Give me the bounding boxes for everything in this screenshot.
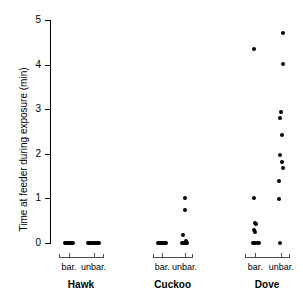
x-sublabel-unbar-3: unbar.: [165, 262, 205, 273]
data-point: [279, 110, 283, 114]
data-point: [278, 241, 282, 245]
y-tick-0: [45, 243, 50, 244]
group-bracket-end-2-1: [289, 254, 290, 258]
data-point: [277, 179, 281, 183]
y-tick-label-1: 1: [26, 193, 41, 203]
y-tick-5: [45, 20, 50, 21]
data-point: [281, 62, 285, 66]
y-tick-label-4: 4: [26, 60, 41, 70]
y-tick-4: [45, 65, 50, 66]
data-point: [252, 196, 256, 200]
group-bracket-dove: [245, 257, 289, 258]
data-point: [185, 241, 189, 245]
data-point: [278, 116, 282, 120]
group-bracket-end-2-0: [245, 254, 246, 258]
data-point: [71, 241, 75, 245]
group-bracket-end-0-1: [103, 254, 104, 258]
x-sublabel-unbar-1: unbar.: [74, 262, 114, 273]
data-point: [183, 196, 187, 200]
y-tick-label-3: 3: [26, 104, 41, 114]
data-point: [278, 153, 282, 157]
chart-figure: Time at feeder during exposure (min) 012…: [0, 0, 303, 299]
group-label-hawk: Hawk: [41, 279, 121, 291]
y-tick-1: [45, 198, 50, 199]
data-point: [257, 241, 261, 245]
data-point: [277, 197, 281, 201]
x-sublabel-unbar-5: unbar.: [261, 262, 301, 273]
y-tick-2: [45, 154, 50, 155]
data-point: [281, 31, 285, 35]
group-bracket-end-0-0: [59, 254, 60, 258]
data-point: [254, 222, 258, 226]
group-label-dove: Dove: [227, 279, 303, 291]
group-bracket-cuckoo: [153, 257, 192, 258]
y-tick-label-5: 5: [26, 15, 41, 25]
group-label-cuckoo: Cuckoo: [133, 279, 213, 291]
y-tick-label-2: 2: [26, 149, 41, 159]
data-point: [280, 160, 284, 164]
data-point: [281, 166, 285, 170]
data-point: [97, 241, 101, 245]
group-bracket-hawk: [59, 257, 103, 258]
group-bracket-end-1-0: [153, 254, 154, 258]
y-tick-3: [45, 109, 50, 110]
data-point: [280, 133, 284, 137]
data-point: [183, 208, 187, 212]
data-point: [252, 47, 256, 51]
group-bracket-end-1-1: [192, 254, 193, 258]
data-point: [253, 230, 257, 234]
data-point: [181, 233, 185, 237]
plot-area: [51, 14, 301, 246]
y-tick-label-0: 0: [26, 238, 41, 248]
data-point: [164, 241, 168, 245]
